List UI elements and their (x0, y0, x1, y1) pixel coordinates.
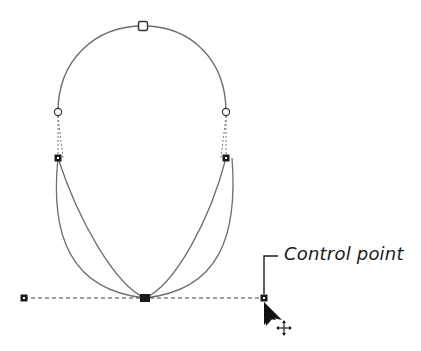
bottom-anchor-node[interactable] (140, 294, 150, 302)
right-handle-node-center (263, 297, 265, 299)
inner-curve-right (145, 158, 226, 298)
right-upper-node[interactable] (222, 108, 229, 115)
left-handle-node-center (23, 297, 25, 299)
upper-arch-curve (58, 26, 226, 112)
callout-leader (264, 256, 278, 294)
right-lower-node-center (225, 157, 227, 159)
inner-curve-left (58, 158, 145, 298)
left-lower-node-center (57, 157, 59, 159)
move-cursor-icon (264, 302, 292, 336)
outer-curve-left (56, 158, 145, 298)
top-anchor-node[interactable] (139, 22, 148, 31)
left-handle-segment (58, 112, 63, 158)
bezier-diagram (0, 0, 421, 351)
left-upper-node[interactable] (54, 108, 61, 115)
right-handle-segment (221, 112, 226, 158)
control-point-label: Control point (284, 243, 404, 264)
